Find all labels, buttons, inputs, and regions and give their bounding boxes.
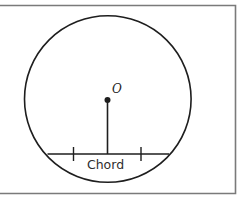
chord-diagram: O Chord [0,0,239,200]
center-label: O [112,82,122,96]
chord-label: Chord [87,157,124,172]
center-point [105,97,111,103]
